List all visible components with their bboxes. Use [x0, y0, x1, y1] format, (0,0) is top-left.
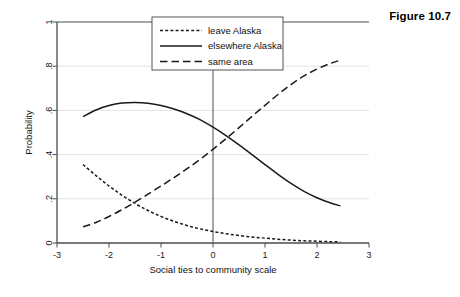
x-tick-label: -2: [105, 250, 113, 260]
y-tick-label: .4: [44, 151, 54, 159]
x-tick-label: 0: [210, 250, 215, 260]
figure-caption: Figure 10.7: [389, 10, 451, 22]
x-tick-label: 1: [262, 250, 267, 260]
x-axis-title: Social ties to community scale: [149, 264, 276, 275]
x-tick-label: 3: [366, 250, 371, 260]
legend-label-elsewhere-alaska[interactable]: elsewhere Alaska: [208, 40, 283, 51]
y-tick-label: .2: [44, 195, 54, 203]
x-tick-label: -1: [157, 250, 165, 260]
chart-svg: -3-2-101230.2.4.6.81 Social ties to comm…: [18, 14, 390, 281]
x-tick-label: -3: [53, 250, 61, 260]
legend-label-same-area[interactable]: same area: [208, 56, 254, 67]
x-tick-label: 2: [314, 250, 319, 260]
y-tick-label: .6: [44, 107, 54, 115]
y-tick-label: .8: [44, 62, 54, 70]
chart-plot-area: -3-2-101230.2.4.6.81 Social ties to comm…: [18, 14, 390, 281]
y-axis-title: Probability: [23, 110, 34, 155]
legend-label-leave-alaska[interactable]: leave Alaska: [208, 25, 262, 36]
figure-root: Figure 10.7 -3-2-101230.2.4.6.81 Social …: [0, 0, 460, 297]
y-tick-label: 1: [44, 19, 54, 24]
y-tick-label: 0: [44, 240, 54, 245]
chart-legend[interactable]: leave Alaskaelsewhere Alaskasame area: [152, 17, 283, 70]
